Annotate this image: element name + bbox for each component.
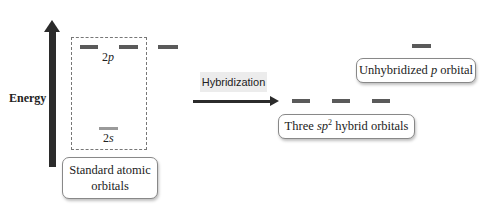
orbital-2s: [99, 127, 118, 130]
orbital-unhybridized-p: [412, 44, 431, 48]
standard-orbitals-label-line2: orbitals: [63, 178, 157, 194]
orbital-2p-3: [158, 45, 178, 49]
unhyb-label-suffix: orbital: [437, 63, 473, 77]
sp2-label-prefix: Three: [285, 119, 317, 133]
hybridization-label: Hybridization: [200, 72, 267, 92]
sp2-label-suffix: hybrid orbitals: [332, 119, 408, 133]
energy-arrow-head-icon: [44, 20, 60, 32]
orbital-2p-1: [80, 45, 98, 49]
standard-orbitals-label-line1: Standard atomic: [63, 162, 157, 178]
unhyb-label-prefix: Unhybridized: [359, 63, 431, 77]
hybridization-arrow: [193, 100, 271, 103]
unhybridized-p-callout: Unhybridized p orbital: [356, 58, 476, 83]
energy-axis-arrow: [49, 30, 56, 167]
orbital-sp2-2: [332, 99, 350, 103]
sp2-orbitals-callout: Three sp2 hybrid orbitals: [278, 114, 415, 139]
orbital-sp2-1: [292, 99, 310, 103]
hybridization-arrow-head-icon: [270, 96, 279, 106]
orbital-2p-2: [119, 45, 138, 49]
orbital-2p-label: 2p: [102, 50, 114, 65]
energy-axis-label: Energy: [9, 91, 46, 106]
standard-orbitals-callout: Standard atomic orbitals: [62, 157, 158, 199]
orbital-2s-label: 2s: [103, 131, 114, 146]
orbital-sp2-3: [372, 99, 390, 103]
sp2-label-italic: sp: [317, 119, 328, 133]
